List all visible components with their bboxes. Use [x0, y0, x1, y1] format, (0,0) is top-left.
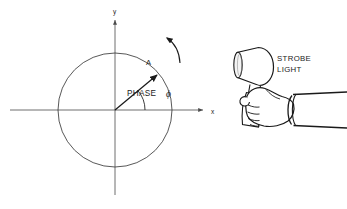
x-axis-label: x — [211, 108, 215, 115]
y-axis-label: y — [113, 8, 117, 16]
phasor-strobe-diagram: x y A PHASE ϕ STROBE LIGHT — [0, 0, 347, 209]
counterclockwise-rotation-arrow — [167, 38, 180, 63]
phase-text-label: PHASE — [127, 89, 156, 98]
strobe-callout-line2: LIGHT — [277, 65, 302, 74]
axes-group — [10, 20, 203, 195]
strobe-callout-line1: STROBE — [277, 54, 311, 63]
hand-gripping-handle — [240, 88, 347, 128]
diagram-canvas: x y A PHASE ϕ STROBE LIGHT — [0, 0, 347, 209]
sleeve-top-edge — [293, 92, 347, 95]
sleeve-bottom-edge — [294, 126, 347, 129]
phi-symbol-label: ϕ — [166, 89, 171, 99]
phasor-label-a: A — [146, 58, 151, 67]
